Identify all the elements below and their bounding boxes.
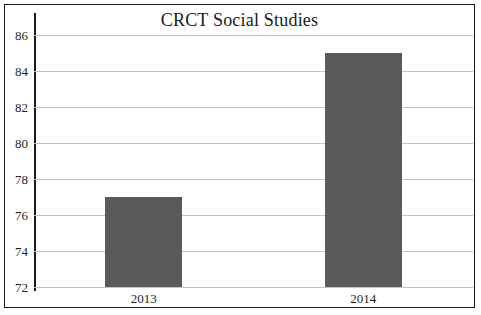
bar-2013 xyxy=(105,197,182,287)
gridline: 76 xyxy=(34,215,473,216)
gridline: 80 xyxy=(34,143,473,144)
gridline: 74 xyxy=(34,251,473,252)
x-axis-tick-label-2013: 2013 xyxy=(131,291,157,307)
y-axis-tick-label: 74 xyxy=(15,245,28,258)
y-axis-tick-label: 72 xyxy=(15,281,28,294)
gridline: 72 xyxy=(34,287,473,288)
gridline: 82 xyxy=(34,107,473,108)
chart-frame: CRCT Social Studies 72747678808284862013… xyxy=(4,4,475,308)
y-axis-tick-label: 80 xyxy=(15,137,28,150)
y-axis-tick-label: 78 xyxy=(15,173,28,186)
bar-2014 xyxy=(325,53,402,287)
chart-title: CRCT Social Studies xyxy=(5,7,474,33)
y-axis-tick-label: 84 xyxy=(15,65,28,78)
gridline: 84 xyxy=(34,71,473,72)
y-axis-tick-label: 82 xyxy=(15,101,28,114)
y-axis-tick-label: 76 xyxy=(15,209,28,222)
gridline: 86 xyxy=(34,35,473,36)
x-axis-tick-label-2014: 2014 xyxy=(350,291,376,307)
gridline: 78 xyxy=(34,179,473,180)
plot-area: 727476788082848620132014 xyxy=(34,35,473,287)
y-axis-tick-label: 86 xyxy=(15,29,28,42)
